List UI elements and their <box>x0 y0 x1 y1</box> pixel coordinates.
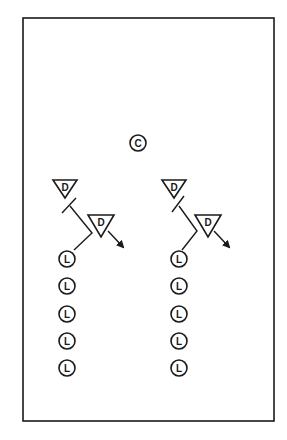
drill-group-left: DDLLLLL <box>53 180 123 376</box>
line-player-2-label: L <box>176 281 182 292</box>
defender-label: D <box>97 217 104 228</box>
line-player-3-label: L <box>176 309 182 320</box>
drill-group-right: DDLLLLL <box>162 180 229 376</box>
line-player-1: L <box>171 251 187 267</box>
line-player-4: L <box>171 333 187 349</box>
line-player-3-label: L <box>64 309 70 320</box>
line-player-5-label: L <box>64 363 70 374</box>
line-player-4: L <box>59 333 75 349</box>
coach-label: C <box>134 138 141 149</box>
defender-1: D <box>53 180 77 198</box>
line-player-3: L <box>59 306 75 322</box>
line-player-2: L <box>59 278 75 294</box>
drill-diagram-canvas: C DDLLLLLDDLLLLL <box>0 0 287 440</box>
drill-diagram: C DDLLLLLDDLLLLL <box>0 0 287 440</box>
line-player-5-label: L <box>176 363 182 374</box>
coach: C <box>130 135 146 151</box>
line-player-1-label: L <box>64 254 70 265</box>
defender-label: D <box>204 217 211 228</box>
line-player-5: L <box>171 360 187 376</box>
cut-path-line <box>179 206 197 250</box>
line-player-1-label: L <box>176 254 182 265</box>
line-player-4-label: L <box>64 336 70 347</box>
line-player-2: L <box>171 278 187 294</box>
coach-marker: C <box>130 135 146 151</box>
cut-path-line <box>70 206 92 250</box>
line-player-1: L <box>59 251 75 267</box>
defender-label: D <box>170 182 177 193</box>
defender-1: D <box>162 180 186 198</box>
movement-arrow-icon <box>214 231 229 247</box>
defender-label: D <box>61 182 68 193</box>
field-boundary <box>23 18 274 421</box>
drill-groups: DDLLLLLDDLLLLL <box>53 180 229 376</box>
line-player-4-label: L <box>176 336 182 347</box>
line-player-5: L <box>59 360 75 376</box>
movement-arrow-icon <box>108 231 123 247</box>
line-player-2-label: L <box>64 281 70 292</box>
line-player-3: L <box>171 306 187 322</box>
